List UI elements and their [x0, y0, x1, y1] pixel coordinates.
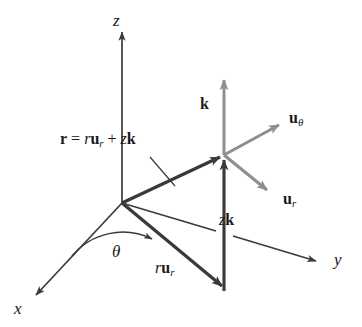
- ru-r-subscript: r: [170, 266, 174, 278]
- equation-lhs: r: [60, 130, 67, 147]
- equation-plus: +: [108, 130, 117, 147]
- y-axis-label: y: [334, 251, 342, 268]
- cylindrical-coordinates-diagram: z x y r=rur+zk k uθ ur zk rur θ: [0, 0, 362, 327]
- u-theta-unit-vector-label: uθ: [289, 110, 303, 128]
- zk-vector: k: [225, 211, 234, 228]
- position-vector-equation-label: r=rur+zk: [60, 131, 136, 149]
- zk-component-label: zk: [219, 212, 234, 228]
- u-r-unit-vector: [224, 155, 267, 190]
- equation-term1-subscript: r: [99, 137, 103, 149]
- u-r-unit-vector-label: ur: [283, 191, 296, 209]
- x-axis-label: x: [14, 300, 22, 317]
- y-axis-line-left: [122, 203, 216, 231]
- equation-equals: =: [71, 130, 80, 147]
- equation-term1-vector: u: [90, 130, 99, 147]
- u-r-subscript: r: [292, 197, 296, 209]
- theta-angle-label: θ: [112, 243, 120, 260]
- ru-r-vector: u: [161, 259, 170, 276]
- ru-r-component-label: rur: [155, 260, 174, 278]
- vector-canvas: [0, 0, 362, 327]
- u-theta-base: u: [289, 109, 298, 126]
- equation-term2-vector: k: [127, 130, 136, 147]
- position-vector-r: [122, 157, 220, 203]
- u-r-base: u: [283, 190, 292, 207]
- y-axis-line-right: [233, 236, 316, 261]
- z-axis-label: z: [113, 12, 120, 29]
- u-theta-unit-vector: [224, 125, 279, 155]
- k-unit-vector-label: k: [200, 96, 209, 112]
- u-theta-subscript: θ: [298, 116, 303, 128]
